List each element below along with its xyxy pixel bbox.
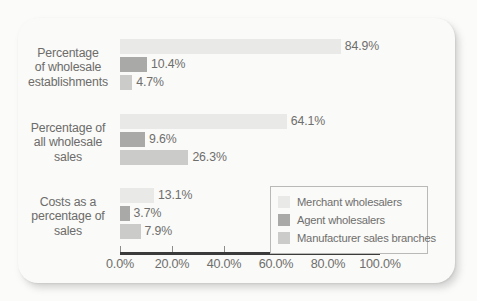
x-axis-tick (224, 246, 225, 252)
x-axis-tick-label: 100.0% (350, 257, 410, 271)
bar-value-g0-s2: 4.7% (136, 75, 164, 90)
x-axis-tick-label: 40.0% (194, 257, 254, 271)
category-label-1: Percentage of all wholesale sales (16, 121, 120, 164)
legend-swatch-icon (278, 214, 290, 226)
category-label-0: Percentage of wholesale establishments (16, 46, 120, 89)
legend-label: Manufacturer sales branches (297, 232, 436, 244)
category-label-line: sales (16, 150, 120, 164)
legend-label: Agent wholesalers (297, 214, 385, 226)
x-axis-tick-label: 20.0% (142, 257, 202, 271)
bar-value-g0-s1: 10.4% (151, 57, 185, 72)
legend-item-agent-wholesalers: Agent wholesalers (278, 211, 420, 229)
category-label-2: Costs as a percentage of sales (16, 195, 120, 238)
chart-legend: Merchant wholesalers Agent wholesalers M… (270, 186, 428, 254)
legend-item-merchant-wholesalers: Merchant wholesalers (278, 193, 420, 211)
bar-value-g0-s0: 84.9% (345, 39, 379, 54)
bar-g1-s1 (120, 132, 145, 147)
bar-g1-s2 (120, 150, 188, 165)
bar-g2-s0 (120, 188, 154, 203)
category-label-line: sales (16, 224, 120, 238)
legend-swatch-icon (278, 196, 290, 208)
x-axis-tick-label: 80.0% (298, 257, 358, 271)
category-label-line: Percentage (16, 46, 120, 60)
category-label-line: Percentage of (16, 121, 120, 135)
category-label-line: Costs as a (16, 195, 120, 209)
chart-card: Percentage of wholesale establishments P… (18, 18, 455, 283)
bar-value-g1-s2: 26.3% (192, 150, 226, 165)
legend-item-manufacturer-sales-branches: Manufacturer sales branches (278, 229, 420, 247)
category-label-line: all wholesale (16, 135, 120, 149)
bar-value-g1-s0: 64.1% (291, 114, 325, 129)
x-axis-tick (172, 246, 173, 252)
x-axis-tick-label: 60.0% (246, 257, 306, 271)
bar-value-g2-s0: 13.1% (158, 188, 192, 203)
bar-value-g1-s1: 9.6% (149, 132, 177, 147)
bar-g0-s0 (120, 39, 341, 54)
bar-g0-s2 (120, 75, 132, 90)
category-label-line: of wholesale (16, 60, 120, 74)
legend-label: Merchant wholesalers (297, 196, 402, 208)
bar-value-g2-s1: 3.7% (134, 206, 162, 221)
legend-swatch-icon (278, 232, 290, 244)
category-label-line: percentage of (16, 209, 120, 223)
x-axis-tick (120, 246, 121, 252)
category-label-line: establishments (16, 75, 120, 89)
x-axis-tick-label: 0.0% (90, 257, 150, 271)
bar-chart: Percentage of wholesale establishments P… (18, 18, 455, 283)
bar-g2-s2 (120, 224, 141, 239)
bar-g1-s0 (120, 114, 287, 129)
bar-g2-s1 (120, 206, 130, 221)
screenshot-root: Percentage of wholesale establishments P… (0, 0, 477, 301)
bar-value-g2-s2: 7.9% (145, 224, 173, 239)
bar-g0-s1 (120, 57, 147, 72)
